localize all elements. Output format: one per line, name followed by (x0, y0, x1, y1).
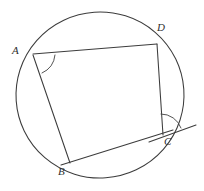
angle-mark-A (42, 55, 55, 73)
tangent-at-C (149, 125, 196, 142)
vertex-label-a: A (12, 45, 19, 56)
segment-AD (33, 44, 157, 54)
segment-BC (61, 130, 173, 165)
vertex-label-b: B (58, 166, 65, 177)
geometry-figure: A B C D (0, 0, 204, 191)
vertex-label-c: C (164, 136, 171, 147)
segment-AB (33, 55, 70, 163)
vertex-label-d: D (157, 22, 165, 33)
figure-canvas (0, 0, 204, 191)
segment-DC (157, 44, 163, 135)
